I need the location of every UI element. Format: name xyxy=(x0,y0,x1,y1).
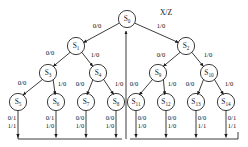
node-circle-S12 xyxy=(157,93,174,110)
leaf-drop-lines xyxy=(18,111,226,138)
edge-S0-S1 xyxy=(83,23,119,42)
node-circle-S13 xyxy=(187,93,204,110)
reset-return-bus xyxy=(18,31,238,139)
edge-S1-S4 xyxy=(82,52,93,66)
node-circle-S6 xyxy=(47,93,64,110)
diagram-vector-layer xyxy=(0,0,248,147)
node-circle-S10 xyxy=(200,64,217,81)
transition-edges xyxy=(23,23,223,95)
state-diagram-figure: S0 S1 S2 S3 S4 S9 S10 S5 S6 S7 S8 S11 S1… xyxy=(0,0,248,147)
edge-S2-S9 xyxy=(163,52,180,66)
edge-S1-S3 xyxy=(53,52,70,66)
edge-S4-S8 xyxy=(104,79,114,94)
edge-S2-S10 xyxy=(192,52,204,66)
edge-S9-S12 xyxy=(163,79,164,94)
node-circle-S14 xyxy=(217,93,234,110)
edge-S9-S11 xyxy=(139,79,152,95)
node-circle-S4 xyxy=(89,64,106,81)
edge-S3-S6 xyxy=(53,80,55,95)
edge-S4-S7 xyxy=(87,80,93,95)
node-circle-S1 xyxy=(67,37,84,54)
node-circle-S2 xyxy=(177,37,194,54)
xz-notation-label: X/Z xyxy=(160,8,172,17)
node-circle-S11 xyxy=(127,93,144,110)
node-circles xyxy=(9,10,234,110)
edge-S10-S13 xyxy=(198,79,204,94)
node-circle-S8 xyxy=(107,93,124,110)
node-circle-S9 xyxy=(149,64,166,81)
node-circle-S7 xyxy=(77,93,94,110)
edge-S0-S2 xyxy=(135,23,179,42)
edge-S3-S5 xyxy=(23,79,43,95)
node-circle-S5 xyxy=(9,93,26,110)
edge-S10-S14 xyxy=(214,79,223,94)
node-circle-S3 xyxy=(39,64,56,81)
node-circle-S0 xyxy=(118,10,135,27)
